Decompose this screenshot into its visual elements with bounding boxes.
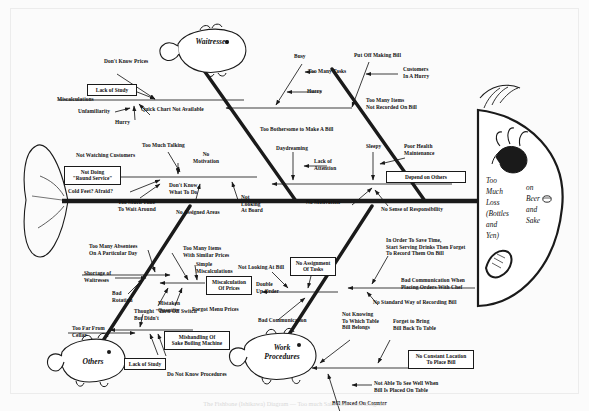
cause-double-up-order: Double Up Order <box>256 281 279 294</box>
head-text-right1: on <box>526 183 533 193</box>
head-text-right3: and <box>526 205 537 215</box>
head-text-line2: Much <box>486 187 503 197</box>
cause-no-motivation-ur: No Motivation <box>306 199 340 206</box>
cause-no-constant-location-to-place-bill: No Constant Location To Place Bill <box>408 350 474 369</box>
head-text-line3: Loss <box>486 198 500 208</box>
cause-customers-in-a-hurry: Customers In A Hurry <box>403 66 429 79</box>
cause-lack-of-attention: Lack of Attention <box>314 158 336 171</box>
bone-waitresses <box>203 69 296 201</box>
cause-too-far-from-cellar: Too Far From Cellar <box>72 325 105 338</box>
head-text-line1: Too <box>486 176 497 186</box>
cause-miscalculation-of-prices: Miscalculation Of Prices <box>206 276 252 295</box>
cause-dont-know-prices: Don't Know Prices <box>104 58 148 65</box>
cause-sleepy: Sleepy <box>366 143 381 150</box>
cause-not-able-to-see-well: Not Able To See Well When Bill Is Placed… <box>374 380 438 393</box>
figure-caption: The Fishbone (Ishikawa) Diagram — Too mu… <box>0 400 589 409</box>
cause-depend-on-others: Depend on Others <box>386 171 466 183</box>
category-label-waitresses: Waitresses <box>182 38 242 47</box>
cause-lack-of-study-top: Lack of Study <box>87 84 137 96</box>
cause-lack-of-study-others: Lack of Study <box>124 358 166 370</box>
cause-not-looking-at-bill: Not Looking At Bill <box>238 264 284 271</box>
cause-bad-communication: Bad Communication <box>258 317 307 324</box>
cause-not-watching-customers: Not Watching Customers <box>76 152 135 159</box>
cause-no-standard-way-of-recording-bill: No Standard Way of Recording Bill <box>373 299 456 306</box>
head-text-line6: Yen) <box>486 231 499 241</box>
cause-too-many-items-not-recorded: Too Many Items Not Recorded On Bill <box>366 97 417 110</box>
cause-forget-to-bring-bill-back: Forget to Bring Bill Back To Table <box>393 318 436 331</box>
category-label-others: Others <box>66 358 120 367</box>
cause-poor-health-maintenance: Poor Health Maintenance <box>404 143 435 156</box>
head-text-right2: Beer <box>526 194 540 204</box>
cause-too-much-time-to-wait-around: Too Much Time To Wait Around <box>118 199 156 212</box>
fishbone-diagram-page: Waitresses Others Work Procedures Too Mu… <box>0 0 589 411</box>
cause-bad-rotation: Bad Rotation <box>112 290 132 303</box>
cause-thought-turn-off-switch: Thought "Turn Off Switch" But Didn't <box>134 308 200 321</box>
cause-miscalculations: Miscalculations <box>57 96 94 103</box>
cause-daydreaming: Daydreaming <box>276 145 308 152</box>
cause-simple-miscalculations: Simple Miscalculations <box>196 261 233 274</box>
cause-no-assigned-areas: No Assigned Areas <box>176 209 220 216</box>
cause-not-doing-round-service: Not Doing "Round Service" <box>64 166 121 185</box>
cause-quick-chart-not-available: Quick Chart Not Available <box>141 106 204 113</box>
cause-cold-feet-afraid: Cold Feet? Afraid? <box>68 188 113 195</box>
cause-too-much-talking: Too Much Talking <box>142 142 185 149</box>
cause-shortage-of-waitresses: Shortage of Waitresses <box>84 270 111 283</box>
cause-in-order-to-save-time: In Order To Save Time, Start Serving Dri… <box>386 237 465 257</box>
cause-unfamiliarity: Unfamiliarity <box>78 108 110 115</box>
cause-too-many-tasks: Too Many Tasks <box>308 68 346 75</box>
cause-put-off-making-bill: Put Off Making Bill <box>354 52 401 59</box>
cause-no-assignment-of-tasks: No Assignment Of Tasks <box>290 257 336 276</box>
cause-hurry-ur: Hurry <box>307 88 322 95</box>
cause-do-not-know-procedures: Do Not Know Procedures <box>167 371 227 378</box>
cause-too-many-items-with-similar-prices: Too Many Items With Similar Prices <box>183 245 229 258</box>
cause-not-looking-at-board: Not Looking At Board <box>241 194 263 214</box>
head-text-right4: Sake <box>526 216 540 226</box>
cause-hurry-ul: Hurry <box>115 119 130 126</box>
cause-too-many-absentees: Too Many Absentees On A Particular Day <box>89 243 137 256</box>
cause-busy: Busy <box>294 53 306 60</box>
cause-mishandling-of-sake-boiling-machine: Mishandling Of Sake Boiling Machine <box>164 331 230 350</box>
cause-no-motivation-ul: No Motivation <box>186 151 226 164</box>
cause-no-sense-of-responsibility: No Sense of Responsibility <box>381 206 443 213</box>
head-text-line5: and <box>486 220 497 230</box>
category-label-work-procedures: Work Procedures <box>250 344 314 361</box>
cause-too-bothersome-to-make-a-bill: Too Bothersome to Make A Bill <box>260 126 333 133</box>
cause-bad-communication-with-chef: Bad Communication When Placing Orders Wi… <box>401 277 465 290</box>
category-fish-waitresses <box>160 24 246 76</box>
cause-not-knowing-to-which-table: Not Knowing To Which Table Bill Belongs <box>342 311 379 331</box>
cause-dont-know-what-to-do: Don't Know What To Do <box>169 182 198 195</box>
sub-bones-upper-right <box>226 62 452 206</box>
fish-tail <box>24 145 68 257</box>
head-text-line4: (Bottles <box>486 209 509 219</box>
